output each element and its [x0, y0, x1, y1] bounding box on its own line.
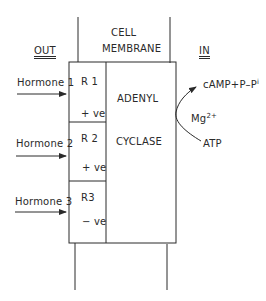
hormone-1-label: Hormone 1	[17, 77, 74, 88]
receptor-1-name: R 1	[81, 76, 98, 87]
receptor-1-effect: + ve	[81, 108, 105, 119]
out-label: OUT	[34, 45, 56, 59]
receptor-3-effect: − ve	[82, 216, 106, 227]
membrane-label: MEMBRANE	[102, 43, 161, 54]
substrate-label: ATP	[203, 138, 222, 149]
cell-label: CELL	[111, 27, 136, 38]
enzyme-label-line2: CYCLASE	[116, 136, 162, 147]
receptor-2-effect: + ve	[82, 162, 106, 173]
hormone-3-label: Hormone 3	[15, 196, 72, 207]
cofactor-label: Mg2+	[191, 113, 217, 124]
in-label: IN	[199, 45, 210, 59]
enzyme-label-line1: ADENYL	[117, 93, 158, 104]
receptor-2-name: R 2	[81, 133, 98, 144]
product-label: cAMP+P–Pi	[203, 79, 259, 90]
receptor-3-name: R3	[81, 192, 95, 203]
hormone-2-label: Hormone 2	[16, 138, 73, 149]
